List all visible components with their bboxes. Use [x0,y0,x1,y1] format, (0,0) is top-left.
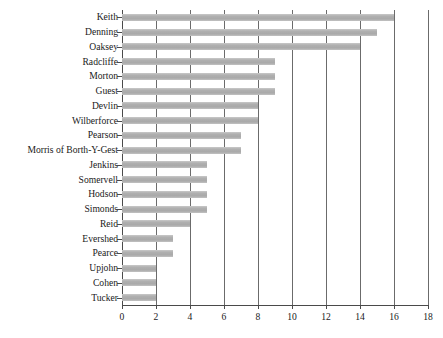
bar-row [122,99,428,114]
bar-row [122,40,428,55]
bar-row [122,113,428,128]
x-axis-tick [428,305,429,309]
bar-row [122,246,428,261]
y-axis-label: Denning [4,27,118,37]
bar-rows [122,10,428,305]
x-axis-label: 6 [209,311,239,323]
bar-row [122,128,428,143]
y-axis-label: Pearson [4,130,118,140]
bar [122,132,241,139]
y-axis-tick [117,283,122,284]
bar [122,43,360,50]
y-axis-label: Tucker [4,293,118,303]
y-axis-label: Upjohn [4,263,118,273]
x-axis-label: 2 [141,311,171,323]
y-axis-label: Radcliffe [4,57,118,67]
x-axis-label: 10 [277,311,307,323]
y-axis-label: Guest [4,86,118,96]
bar [122,88,275,95]
bar-chart: KeithDenningOakseyRadcliffeMortonGuestDe… [0,0,443,338]
y-axis-tick [117,76,122,77]
bar-row [122,172,428,187]
y-axis-tick [117,298,122,299]
x-axis-label: 4 [175,311,205,323]
y-axis-label: Oaksey [4,42,118,52]
bar-row [122,231,428,246]
bar-row [122,261,428,276]
bar-row [122,143,428,158]
x-axis-label: 8 [243,311,273,323]
bar [122,294,156,301]
x-axis-tick [122,305,123,309]
bar [122,29,377,36]
plot-area [122,10,428,305]
bar-row [122,25,428,40]
bar [122,147,241,154]
y-axis-label: Keith [4,12,118,22]
y-axis-tick [117,47,122,48]
x-axis-tick [292,305,293,309]
y-axis-tick [117,17,122,18]
x-axis-label: 12 [311,311,341,323]
bar-row [122,84,428,99]
bar [122,73,275,80]
x-axis-tick [360,305,361,309]
y-axis-tick [117,150,122,151]
y-axis-tick [117,268,122,269]
bar [122,176,207,183]
bar [122,220,190,227]
bar [122,102,258,109]
y-axis-label: Cohen [4,278,118,288]
y-axis-label: Pearce [4,248,118,258]
bar-row [122,69,428,84]
y-axis-label: Jenkins [4,160,118,170]
y-axis-tick [117,239,122,240]
x-axis-label: 0 [107,311,137,323]
y-axis-label: Wilberforce [4,116,118,126]
bar-row [122,290,428,305]
bar-row [122,54,428,69]
bar [122,191,207,198]
bar-row [122,202,428,217]
bar [122,58,275,65]
y-axis-label: Morton [4,71,118,81]
y-axis-tick [117,224,122,225]
y-axis-tick [117,32,122,33]
x-axis-label: 14 [345,311,375,323]
x-axis-baseline [122,305,429,306]
bar-row [122,187,428,202]
y-axis-tick [117,135,122,136]
y-axis-label: Somervell [4,175,118,185]
x-axis-label: 16 [379,311,409,323]
y-axis-tick [117,165,122,166]
bar [122,250,173,257]
y-axis-tick [117,121,122,122]
bar-row [122,10,428,25]
x-axis-label: 18 [413,311,443,323]
y-axis-tick [117,91,122,92]
y-axis-label: Devlin [4,101,118,111]
bar [122,279,156,286]
x-axis-tick [326,305,327,309]
y-axis-tick [117,253,122,254]
bar [122,206,207,213]
x-axis-tick [224,305,225,309]
x-axis-tick [156,305,157,309]
y-axis-tick [117,106,122,107]
bar [122,14,394,21]
bar [122,235,173,242]
y-axis-tick [117,194,122,195]
bar-row [122,217,428,232]
y-axis-label: Simonds [4,204,118,214]
y-axis-label: Morris of Borth-Y-Gest [4,145,118,155]
y-axis-label: Reid [4,219,118,229]
y-axis-label: Evershed [4,234,118,244]
bar [122,161,207,168]
bar [122,265,156,272]
gridline-18 [428,10,429,305]
y-axis-tick [117,209,122,210]
bar [122,117,258,124]
y-axis-tick [117,62,122,63]
y-axis-labels: KeithDenningOakseyRadcliffeMortonGuestDe… [0,10,118,305]
y-axis-label: Hodson [4,189,118,199]
